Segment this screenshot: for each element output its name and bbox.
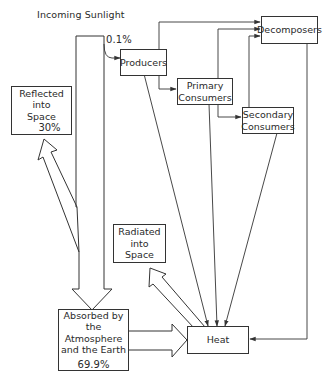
producers-percent-label: 0.1% <box>106 34 132 45</box>
radiated-label-2: into <box>130 238 148 250</box>
secondary-label-2: Consumers <box>241 121 294 133</box>
arrow-secondary-to-decomposers <box>249 36 260 107</box>
arrow-sun-to-producers <box>104 44 120 58</box>
arrow-secondary-to-heat <box>225 133 277 326</box>
arrow-producers-to-decomposers <box>159 22 260 49</box>
absorbed-label-1: Absorbed by <box>64 310 124 322</box>
node-absorbed: Absorbed by the Atmosphere and the Earth… <box>58 309 129 371</box>
arrow-producers-to-heat <box>143 70 208 326</box>
node-decomposers: Decomposers <box>261 16 318 44</box>
arrow-primary-to-heat <box>209 104 217 326</box>
absorbed-to-heat-arrow <box>128 324 187 357</box>
reflected-flow-arrow <box>38 139 79 252</box>
radiated-label-1: Radiated <box>118 226 160 238</box>
reflected-percent: 30% <box>38 122 60 134</box>
absorbed-label-2: the Atmosphere <box>59 321 128 344</box>
secondary-label-1: Secondary <box>243 109 293 121</box>
radiated-label-3: Space <box>125 249 154 261</box>
reflected-label-3: Space <box>27 111 56 123</box>
heat-label: Heat <box>207 334 230 346</box>
sunlight-flow-arrow <box>72 36 112 310</box>
reflected-label-1: Reflected <box>19 88 64 100</box>
node-heat: Heat <box>187 326 249 354</box>
primary-label-2: Consumers <box>178 92 231 104</box>
heat-to-radiated-arrow <box>149 268 205 328</box>
absorbed-label-3: and the Earth <box>61 344 126 356</box>
node-secondary-consumers: Secondary Consumers <box>242 107 294 134</box>
node-primary-consumers: Primary Consumers <box>177 78 233 105</box>
absorbed-percent: 69.9% <box>78 359 110 371</box>
title-incoming-sunlight: Incoming Sunlight <box>37 9 125 20</box>
decomposers-label: Decomposers <box>257 24 322 36</box>
reflected-label-2: into <box>32 99 50 111</box>
arrow-primary-to-secondary <box>218 104 241 117</box>
producers-label: Producers <box>120 57 167 69</box>
node-radiated-into-space: Radiated into Space <box>113 224 166 263</box>
arrow-decomposers-to-heat <box>250 43 307 339</box>
node-producers: Producers <box>120 49 167 76</box>
node-reflected-into-space: Reflected into Space 30% <box>11 86 72 135</box>
primary-label-1: Primary <box>187 80 224 92</box>
